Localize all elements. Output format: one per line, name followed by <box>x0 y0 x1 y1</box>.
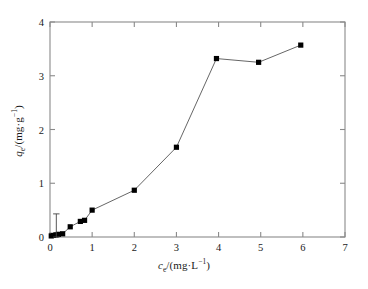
y-axis-unit: /(mg·g <box>12 117 24 148</box>
isotherm-plot <box>0 0 368 289</box>
x-axis-title: ce/(mg·L−1) <box>0 259 368 271</box>
y-axis-symbol: q <box>12 151 24 157</box>
chart-figure: ce/(mg·L−1) qe/(mg·g−1) 0123456701234 <box>0 0 368 289</box>
x-tick-label: 3 <box>174 242 179 253</box>
x-axis-unit-close: ) <box>206 259 210 271</box>
x-tick-label: 1 <box>90 242 95 253</box>
data-point-marker <box>214 56 219 61</box>
y-tick-label: 2 <box>32 124 44 135</box>
y-tick-label: 3 <box>32 70 44 81</box>
y-axis-symbol-subscript: e <box>18 148 27 151</box>
x-tick-label: 5 <box>258 242 263 253</box>
x-tick-label: 4 <box>216 242 221 253</box>
data-point-marker <box>298 43 303 48</box>
data-point-marker <box>256 60 261 65</box>
y-tick-label: 1 <box>32 178 44 189</box>
x-tick-label: 2 <box>132 242 137 253</box>
y-tick-label: 0 <box>32 232 44 243</box>
y-axis-title-wrapper: qe/(mg·g−1) <box>8 76 26 186</box>
plot-frame <box>50 22 345 237</box>
y-tick-label: 4 <box>32 17 44 28</box>
y-axis-unit-close: ) <box>12 105 24 109</box>
y-axis-title: qe/(mg·g−1) <box>12 105 24 157</box>
y-axis-unit-exponent: −1 <box>10 109 19 117</box>
x-tick-label: 0 <box>47 242 52 253</box>
data-point-marker <box>60 231 65 236</box>
data-point-marker <box>68 224 73 229</box>
x-tick-label: 6 <box>300 242 305 253</box>
data-point-marker <box>174 145 179 150</box>
x-tick-label: 7 <box>342 242 347 253</box>
data-point-marker <box>90 208 95 213</box>
x-axis-unit: /(mg·L <box>166 259 198 271</box>
data-point-marker <box>132 188 137 193</box>
data-point-marker <box>82 218 87 223</box>
